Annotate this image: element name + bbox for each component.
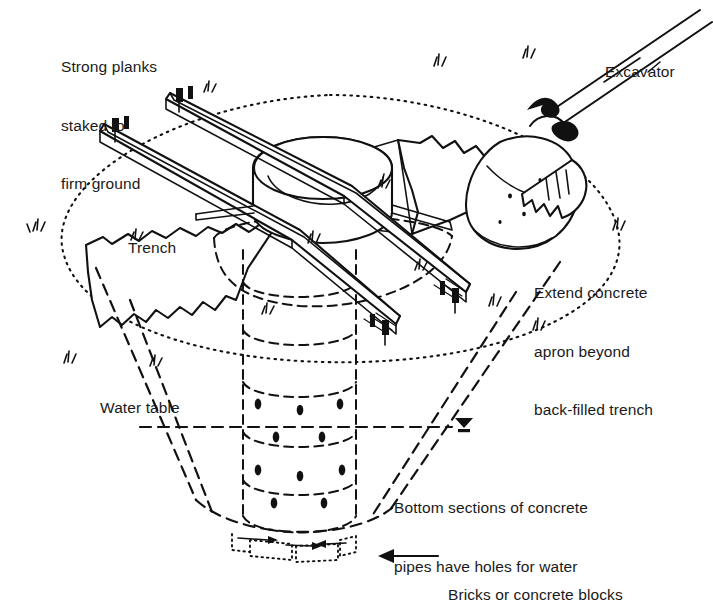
label-extend-apron: Extend concrete apron beyond back-filled… xyxy=(534,244,653,459)
trench-left-spoil xyxy=(86,223,300,327)
excavator xyxy=(466,10,712,249)
water-table-line xyxy=(140,418,473,432)
diagram-canvas: Strong planks staked to firm ground Exca… xyxy=(0,0,713,605)
label-line: firm ground xyxy=(61,174,157,194)
water-table-symbol xyxy=(455,418,473,432)
label-footings: Bricks or concrete blocks for pipe footi… xyxy=(448,546,623,605)
pipe-footing-blocks xyxy=(232,534,356,562)
label-trench: Trench xyxy=(128,238,176,258)
label-line: apron beyond xyxy=(534,342,653,362)
label-excavator: Excavator xyxy=(605,62,675,82)
label-strong-planks: Strong planks staked to firm ground xyxy=(61,18,157,233)
label-line: Bottom sections of concrete xyxy=(394,498,588,518)
buried-pipe-sections xyxy=(243,250,356,533)
label-line: Strong planks xyxy=(61,57,157,77)
label-water-table: Water table xyxy=(100,398,180,418)
label-line: back-filled trench xyxy=(534,400,653,420)
label-line: staked to xyxy=(61,116,157,136)
label-line: Extend concrete xyxy=(534,283,653,303)
label-line: Bricks or concrete blocks xyxy=(448,585,623,605)
